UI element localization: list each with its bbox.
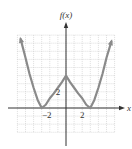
x-tick-label: −2 [42, 110, 52, 120]
curve-arrow-left-icon [19, 37, 24, 43]
chart: −222xf(x) [0, 0, 132, 149]
x-axis-label: x [126, 103, 131, 113]
x-tick-label: 2 [80, 110, 85, 120]
curve-arrow-right-icon [108, 39, 113, 45]
y-axis-label: f(x) [60, 10, 73, 20]
y-axis-arrow-icon [64, 22, 68, 28]
y-tick-label: 2 [56, 87, 61, 97]
x-axis-arrow-icon [119, 106, 125, 110]
